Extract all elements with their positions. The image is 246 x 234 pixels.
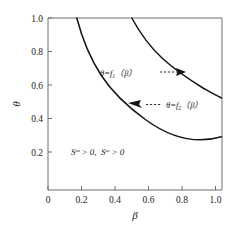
- region-inequality-label: See> 0,Sec> 0: [71, 147, 125, 157]
- x-axis-ticks: [48, 186, 216, 190]
- y-tick-label-0.8: 0.8: [31, 47, 43, 57]
- y-tick-label-1.0: 1.0: [31, 14, 43, 24]
- leader-f2: [128, 100, 162, 108]
- x-tick-label-0.8: 0.8: [176, 195, 188, 205]
- curve-f2: [77, 18, 222, 140]
- y-tick-label-0.6: 0.6: [31, 81, 43, 91]
- y-tick-labels: 1.0 0.8 0.6 0.4 0.2: [31, 14, 43, 158]
- x-tick-label-0.6: 0.6: [143, 195, 155, 205]
- y-tick-label-0.2: 0.2: [31, 148, 43, 158]
- x-tick-label-0: 0: [46, 195, 51, 205]
- region-s2-relation: > 0: [111, 147, 124, 157]
- x-tick-label-0.2: 0.2: [76, 195, 88, 205]
- arrowhead-f1: [176, 68, 186, 76]
- x-axis-label: β: [131, 209, 138, 221]
- chart-svg: 1.0 0.8 0.6 0.4 0.2 0 0.2 0.4 0.6 0.8 1.…: [0, 0, 246, 234]
- y-tick-label-0.4: 0.4: [31, 114, 43, 124]
- chart-figure: 1.0 0.8 0.6 0.4 0.2 0 0.2 0.4 0.6 0.8 1.…: [0, 0, 246, 234]
- annotation-f2-tail: （β）: [181, 100, 203, 110]
- x-tick-label-0.4: 0.4: [109, 195, 121, 205]
- region-s1-superscript: ee: [76, 148, 81, 153]
- curve-f1: [132, 18, 222, 98]
- y-axis-label: θ: [10, 101, 22, 107]
- annotation-f2-label: θ=f2（β）: [166, 100, 203, 111]
- region-s2-superscript: ec: [106, 148, 111, 153]
- x-tick-labels: 0 0.2 0.4 0.6 0.8 1.0: [46, 195, 222, 205]
- x-tick-label-1.0: 1.0: [210, 195, 222, 205]
- annotation-f1-tail: （β）: [115, 68, 137, 78]
- annotation-f1-label: θ=f1（β）: [100, 68, 137, 79]
- y-axis-ticks: [48, 18, 52, 152]
- region-s1-relation: > 0,: [81, 147, 96, 157]
